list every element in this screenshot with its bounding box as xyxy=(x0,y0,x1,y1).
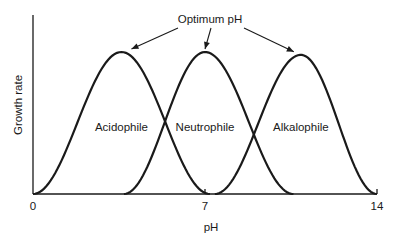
neutrophile-label: Neutrophile xyxy=(176,121,235,133)
arrowhead xyxy=(204,41,210,49)
x-axis-label: pH xyxy=(204,221,219,233)
alkalophile-label: Alkalophile xyxy=(273,121,329,133)
acidophile-label: Acidophile xyxy=(95,121,148,133)
ph-growth-chart: Growth rate pH 0714 AcidophileNeutrophil… xyxy=(0,0,398,240)
optimum-arrows xyxy=(131,28,293,52)
optimum-arrow xyxy=(244,28,294,52)
y-axis-label: Growth rate xyxy=(12,75,24,135)
optimum-arrow xyxy=(131,28,178,49)
optimum-ph-annotation: Optimum pH xyxy=(178,13,243,25)
x-tick-label: 7 xyxy=(202,200,208,212)
x-tick-label: 0 xyxy=(30,200,36,212)
series-labels: AcidophileNeutrophileAlkalophile xyxy=(95,121,329,133)
x-tick-label: 14 xyxy=(371,200,384,212)
